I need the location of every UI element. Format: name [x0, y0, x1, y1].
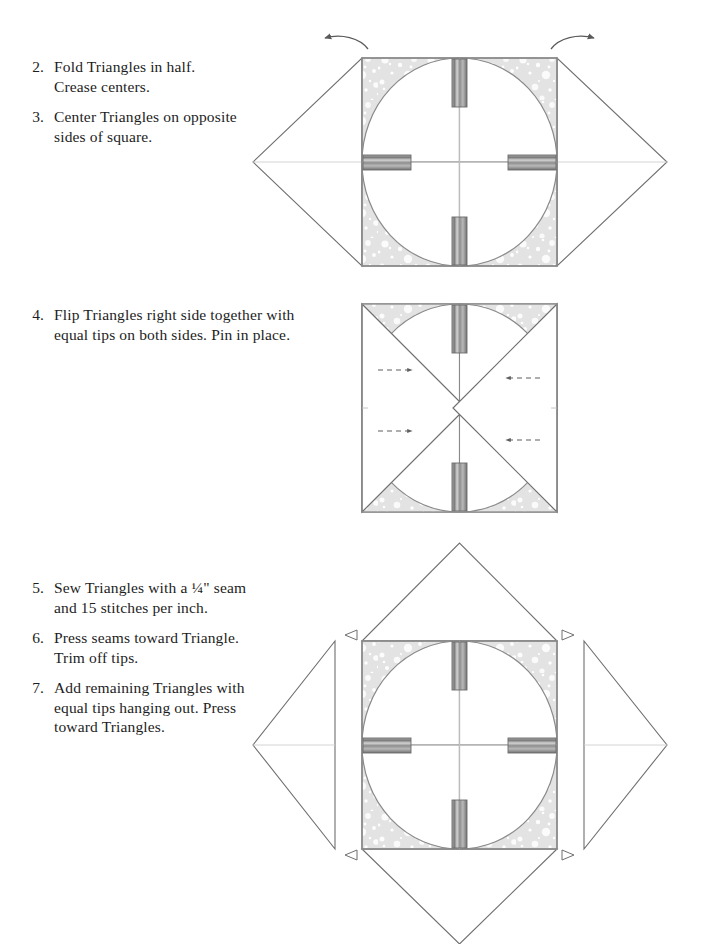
step-text: Press seams toward Triangle. Trim off ti… [54, 628, 239, 667]
figure-all-four-triangles [240, 535, 709, 944]
step-text: Fold Triangles in half. Crease centers. [54, 57, 195, 96]
seam-tab-left [363, 738, 411, 753]
curved-arrow-right-icon [551, 36, 594, 49]
step-number: 6. [22, 628, 44, 648]
seam-tab-right [508, 738, 556, 753]
seam-tab-bottom [452, 463, 467, 511]
corner-tip-marker-top-right [562, 630, 574, 640]
corner-tip-marker-top-left [345, 630, 357, 640]
corner-tip-marker-bottom-right [562, 850, 574, 860]
top-triangle [362, 543, 557, 641]
step-number: 5. [22, 578, 44, 598]
step-text: Add remaining Triangles with equal tips … [54, 678, 245, 737]
step-number: 2. [22, 57, 44, 77]
seam-tab-top [452, 642, 467, 690]
step-number: 4. [22, 305, 44, 325]
corner-tip-marker-bottom-left [345, 850, 357, 860]
step-number: 7. [22, 678, 44, 698]
curved-arrow-left-icon [325, 36, 368, 49]
seam-tab-top [452, 305, 467, 353]
seam-tab-bottom [452, 800, 467, 848]
seam-tab-left [363, 155, 411, 170]
bottom-triangle [362, 849, 557, 944]
seam-tab-bottom [452, 217, 467, 265]
step-text: Sew Triangles with a ¼" seam and 15 stit… [54, 578, 246, 617]
seam-tab-right [508, 155, 556, 170]
figure-square-with-side-triangles [240, 8, 709, 288]
step-number: 3. [22, 107, 44, 127]
figure-triangles-flipped [240, 288, 709, 533]
step-text: Center Triangles on opposite sides of sq… [54, 107, 237, 146]
seam-tab-top [452, 59, 467, 107]
instruction-page: 2. Fold Triangles in half. Crease center… [0, 0, 709, 944]
